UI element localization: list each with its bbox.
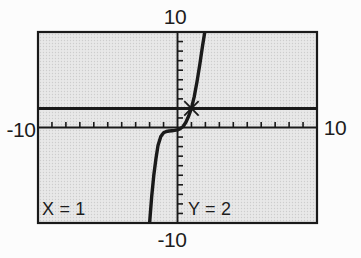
- ymax-axis-label: 10: [164, 6, 186, 27]
- ymin-axis-label: -10: [158, 229, 187, 250]
- calculator-graph-figure: 10 -10 -10 10 X = 1 Y = 2: [0, 0, 361, 258]
- graph-plot: [0, 0, 361, 258]
- cursor-x-readout: X = 1: [42, 200, 86, 218]
- cursor-y-readout: Y = 2: [188, 200, 231, 218]
- xmin-axis-label: -10: [7, 119, 36, 140]
- xmax-axis-label: 10: [324, 117, 346, 138]
